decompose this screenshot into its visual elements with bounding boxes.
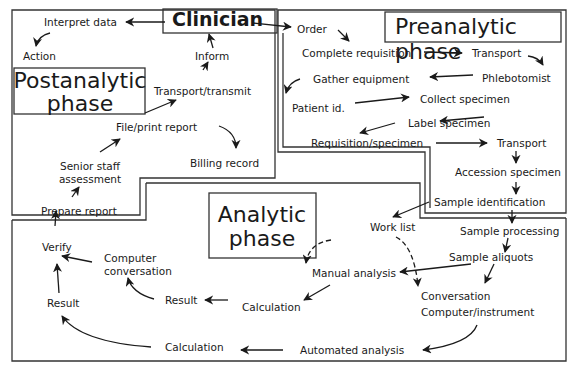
label-conversation: Conversation bbox=[421, 290, 490, 302]
label-automated-analysis: Automated analysis bbox=[300, 344, 404, 356]
label-sample-aliquots: Sample aliquots bbox=[449, 251, 533, 263]
postanalytic-title-line1: Postanalytic bbox=[14, 68, 147, 93]
label-calculation-2: Calculation bbox=[165, 341, 224, 353]
label-work-list: Work list bbox=[370, 221, 415, 233]
label-requisition-specimen: Requisition/specimen bbox=[311, 137, 423, 149]
label-computer-conversation-2: conversation bbox=[104, 265, 172, 277]
label-inform: Inform bbox=[195, 50, 229, 62]
label-result-2: Result bbox=[47, 297, 79, 309]
label-order: Order bbox=[297, 23, 327, 35]
analytic-title-line2: phase bbox=[229, 226, 295, 251]
label-billing-record: Billing record bbox=[190, 157, 259, 169]
label-patient-id: Patient id. bbox=[292, 102, 345, 114]
label-senior-staff-2: assessment bbox=[59, 173, 121, 185]
label-calculation-1: Calculation bbox=[242, 301, 301, 313]
postanalytic-title-line2: phase bbox=[47, 91, 113, 116]
clinician-title: Clinician bbox=[172, 8, 263, 30]
label-transport-1: Transport bbox=[472, 47, 521, 59]
label-prepare-report: Prepare report bbox=[41, 205, 117, 217]
label-gather-equipment: Gather equipment bbox=[313, 73, 409, 85]
label-transport-2: Transport bbox=[497, 137, 546, 149]
label-interpret-data: Interpret data bbox=[44, 16, 117, 28]
label-computer-instrument: Computer/instrument bbox=[421, 306, 534, 318]
label-complete-requisition: Complete requisition bbox=[302, 47, 411, 59]
analytic-title-line1: Analytic bbox=[218, 202, 306, 227]
label-result-1: Result bbox=[165, 294, 197, 306]
label-transport-transmit: Transport/transmit bbox=[154, 85, 251, 97]
label-phlebotomist: Phlebotomist bbox=[482, 72, 551, 84]
label-label-specimen: Label specimen bbox=[408, 117, 490, 129]
label-sample-identification: Sample identification bbox=[434, 196, 545, 208]
label-manual-analysis: Manual analysis bbox=[312, 267, 396, 279]
label-collect-specimen: Collect specimen bbox=[420, 93, 510, 105]
label-senior-staff-1: Senior staff bbox=[60, 160, 120, 172]
label-file-print-report: File/print report bbox=[116, 121, 197, 133]
label-computer-conversation-1: Computer bbox=[104, 252, 156, 264]
label-action: Action bbox=[23, 50, 56, 62]
label-sample-processing: Sample processing bbox=[460, 225, 559, 237]
label-verify: Verify bbox=[42, 241, 72, 253]
label-accession-specimen: Accession specimen bbox=[455, 166, 561, 178]
